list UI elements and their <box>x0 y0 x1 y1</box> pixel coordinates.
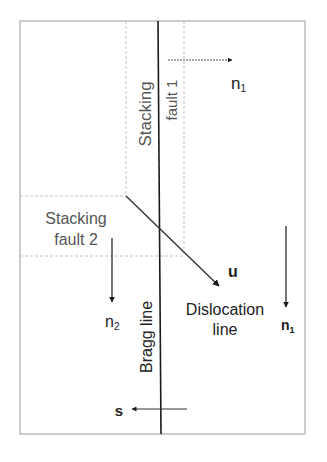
stacking-fault-1-label-line1: Stacking <box>136 81 155 146</box>
n1-right-label: n1 <box>281 317 295 335</box>
stacking-fault-2-label-line1: Stacking <box>45 210 106 227</box>
n2-label: n2 <box>105 313 120 332</box>
stacking-fault-1-label-line2: fault 1 <box>163 80 180 121</box>
bragg-line-label: Bragg line <box>138 301 155 373</box>
dislocation-line-arrow <box>126 196 219 286</box>
n1-top-label: n1 <box>231 74 246 94</box>
dislocation-label-line1: Dislocation <box>186 301 264 318</box>
stacking-fault-2-label-line2: fault 2 <box>54 231 98 248</box>
u-vector-label: u <box>228 263 238 280</box>
stacking-fault-diagram: Stacking fault 1 Stacking fault 2 Bragg … <box>0 0 327 462</box>
s-vector-label: s <box>115 402 123 419</box>
dislocation-label-line2: line <box>213 321 238 338</box>
